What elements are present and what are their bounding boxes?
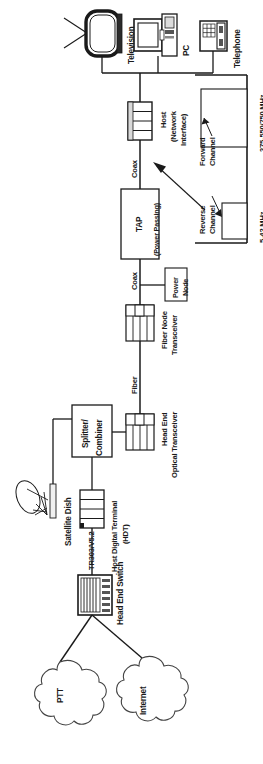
label-fiber-node-line1: Fiber Node: [161, 311, 169, 349]
label-power-node-line2: Node: [182, 279, 190, 296]
label-ptt: PTT: [57, 688, 66, 703]
fiber-node-transceiver-box: [126, 305, 154, 341]
label-host-line1: Host: [160, 112, 168, 128]
label-internet: Internet: [140, 687, 149, 715]
label-head-end-optical-line1: Head End: [161, 413, 169, 446]
label-splitter-line2: Combiner: [96, 419, 105, 456]
label-television: Television: [128, 27, 137, 64]
label-forward-channel-line1: Forward: [199, 137, 207, 166]
label-satellite-dish: Satellite Dish: [65, 497, 74, 546]
label-forward-band: 375-550/750 MHz: [259, 95, 263, 152]
head-end-switch-icon: [78, 575, 112, 615]
label-forward-channel-line2: Channel: [209, 137, 217, 166]
label-host-line2: (Network: [170, 111, 178, 142]
label-reverse-band: 5-42 MHz: [259, 212, 263, 243]
label-coax-upper: Coax: [131, 160, 139, 178]
ptt-cloud-icon: [35, 660, 107, 724]
label-fiber: Fiber: [131, 376, 139, 394]
network-diagram: Television PC Telephone Host (Network In…: [0, 0, 263, 764]
label-power-node-line1: Power: [172, 277, 180, 298]
host-network-interface-box: [128, 102, 152, 140]
label-fiber-node-line2: Transceiver: [171, 315, 179, 355]
label-coax-lower: Coax: [131, 272, 139, 290]
host-digital-terminal-box: [80, 490, 104, 528]
label-host-line3: Interface): [180, 114, 188, 146]
telephone-icon: [200, 21, 227, 73]
label-head-end-optical-line2: Optical Transceiver: [171, 412, 179, 478]
label-head-end-switch: Head End Switch: [117, 562, 126, 625]
label-tr303: TR303/V5.2: [88, 531, 96, 570]
splitter-combiner-box: [72, 405, 112, 457]
label-reverse-channel-line2: Channel: [209, 205, 217, 234]
label-tap-line1: TAP: [136, 217, 145, 232]
label-reverse-channel-line1: Reverse: [199, 206, 207, 234]
label-pc: PC: [183, 45, 192, 56]
label-splitter-line1: Splitter/: [82, 419, 91, 448]
satellite-dish-icon: [11, 477, 56, 518]
head-end-optical-transceiver-box: [126, 414, 154, 450]
label-telephone: Telephone: [234, 29, 243, 68]
label-hdt-line2: (HDT): [122, 524, 130, 544]
television-icon: [64, 11, 122, 73]
internet-cloud-icon: [117, 656, 189, 720]
label-tap-line2: (Power Passing): [153, 203, 161, 256]
pc-icon: [134, 14, 177, 73]
